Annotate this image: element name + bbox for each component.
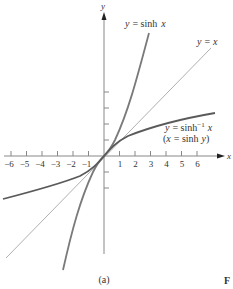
tick-label: −5 [20,159,30,169]
y-axis-label: y [100,1,105,11]
label-identity: y=x [196,36,218,47]
x-tick-labels: −6 −5 −4 −3 −2 −1 1 2 3 4 5 6 [4,159,200,169]
figure-caption: (a) [98,274,109,286]
y-ticks [104,92,109,188]
tick-label: 6 [195,159,200,169]
tick-label: 5 [180,159,185,169]
label-sinh: y= sinhx [124,18,166,29]
x-axis: x −6 −5 −4 −3 −2 −1 1 2 3 4 5 [4,151,231,169]
tick-label: −6 [4,159,14,169]
tick-label: −1 [82,159,92,169]
tick-label: −3 [51,159,61,169]
tick-label: 1 [118,159,123,169]
x-axis-label: x [226,151,231,161]
tick-label: −2 [66,159,76,169]
figure-label-fragment: F [224,275,230,286]
series-sinh [63,33,149,270]
tick-label: 2 [133,159,138,169]
y-axis: y [100,1,109,254]
x-axis-arrow-icon [217,154,225,159]
tick-label: 3 [149,159,154,169]
tick-label: 4 [164,159,169,169]
tick-label: −4 [35,159,45,169]
y-axis-arrow-icon [102,12,107,20]
sinh-graph: y x −6 − [0,0,233,289]
series-identity-line [6,48,211,258]
label-arcsinh-sub: (x= sinhy) [163,133,209,145]
